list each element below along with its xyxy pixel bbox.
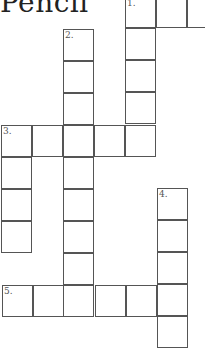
clue-number: 1.: [127, 0, 136, 8]
grid-cell[interactable]: [63, 61, 94, 93]
grid-cell[interactable]: [63, 221, 94, 253]
clue-number: 4.: [159, 189, 168, 199]
grid-cell[interactable]: [157, 316, 188, 348]
grid-cell[interactable]: [63, 157, 94, 189]
grid-cell[interactable]: [1, 221, 32, 253]
grid-cell[interactable]: [125, 60, 156, 92]
grid-cell[interactable]: [63, 93, 94, 125]
grid-cell[interactable]: [63, 189, 94, 221]
grid-cell[interactable]: [63, 253, 94, 285]
puzzle-title: Pencil: [0, 0, 89, 19]
grid-cell[interactable]: [1, 189, 32, 221]
clue-number: 2.: [65, 30, 74, 40]
grid-cell[interactable]: [125, 92, 156, 124]
grid-cell[interactable]: [63, 125, 94, 157]
grid-cell[interactable]: [125, 28, 156, 60]
grid-cell[interactable]: [95, 285, 126, 317]
grid-cell[interactable]: [33, 285, 64, 317]
grid-cell[interactable]: [1, 157, 32, 189]
grid-cell[interactable]: [156, 0, 187, 28]
grid-cell[interactable]: [157, 220, 188, 252]
grid-cell[interactable]: [157, 252, 188, 284]
grid-cell[interactable]: [157, 284, 188, 316]
grid-cell[interactable]: [32, 125, 63, 157]
grid-cell[interactable]: [125, 125, 156, 157]
clue-number: 5.: [4, 286, 13, 296]
grid-cell[interactable]: [187, 0, 205, 28]
clue-number: 3.: [3, 126, 12, 136]
grid-cell[interactable]: [126, 285, 157, 317]
grid-cell[interactable]: [94, 125, 125, 157]
grid-cell[interactable]: [63, 285, 94, 317]
